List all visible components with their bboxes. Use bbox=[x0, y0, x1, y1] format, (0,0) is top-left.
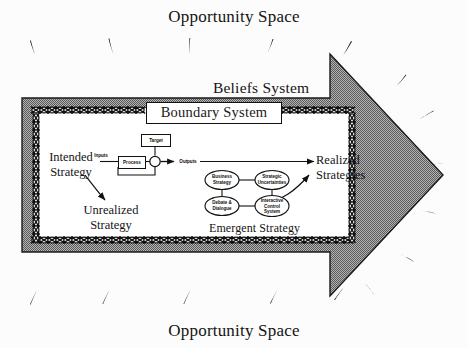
caption-opportunity-space-top: Opportunity Space bbox=[0, 8, 468, 26]
oval-interactive-control-system bbox=[255, 196, 289, 217]
diagram-canvas: Opportunity Space Opportunity Space Beli… bbox=[0, 0, 468, 348]
label-boundary-system: Boundary System bbox=[146, 102, 282, 124]
oval-business-strategy bbox=[205, 171, 239, 190]
caption-opportunity-space-bottom: Opportunity Space bbox=[0, 322, 468, 340]
box-process: Process bbox=[118, 156, 146, 169]
label-realized-strategies: Realized Strategies bbox=[316, 153, 384, 183]
label-outputs: Outputs bbox=[177, 159, 199, 164]
summing-junction bbox=[150, 156, 160, 166]
box-target: Target bbox=[141, 134, 171, 147]
label-unrealized-strategy-line1: Unrealized bbox=[75, 203, 147, 218]
label-emergent-strategy: Emergent Strategy bbox=[209, 222, 300, 235]
oval-strategic-uncertainties bbox=[255, 171, 289, 190]
label-realized-strategies-line2: Strategies bbox=[316, 168, 384, 183]
label-intended-strategy-line2: Strategy bbox=[39, 165, 103, 180]
label-realized-strategies-line1: Realized bbox=[316, 153, 384, 168]
radiating-rays-top bbox=[30, 38, 352, 56]
radiating-rays-bottom bbox=[30, 287, 344, 304]
label-beliefs-system: Beliefs System bbox=[213, 80, 309, 97]
label-inputs: Inputs bbox=[92, 153, 110, 158]
label-unrealized-strategy: Unrealized Strategy bbox=[75, 203, 147, 233]
label-unrealized-strategy-line2: Strategy bbox=[75, 218, 147, 233]
oval-debate-dialogue bbox=[205, 197, 239, 216]
